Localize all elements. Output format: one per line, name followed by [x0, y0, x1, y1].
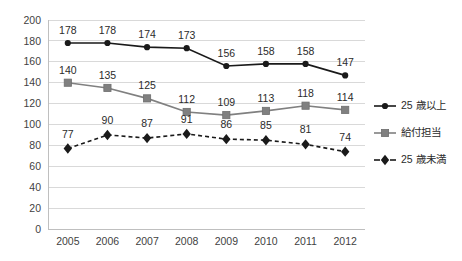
legend-label: 25 歳未満: [401, 153, 447, 165]
x-axis-tick-label: 2012: [334, 235, 358, 247]
x-axis-tick-label: 2006: [96, 235, 120, 247]
y-axis-tick-label: 160: [23, 55, 41, 67]
data-point-marker: [64, 79, 71, 86]
data-point-marker: [65, 40, 71, 46]
data-point-marker: [342, 106, 349, 113]
data-point-marker: [263, 61, 269, 67]
data-point-label: 147: [336, 56, 354, 68]
data-point-label: 77: [62, 128, 74, 140]
data-point-label: 174: [138, 28, 156, 40]
legend-label: 25 歳以上: [401, 99, 446, 111]
y-axis-tick-label: 40: [29, 181, 41, 193]
data-point-marker: [103, 130, 111, 140]
y-axis-tick-label: 0: [35, 223, 41, 235]
y-axis-tick-label: 140: [23, 76, 41, 88]
data-point-label: 86: [220, 118, 232, 130]
data-point-marker: [341, 146, 349, 156]
legend-entry[interactable]: 25 歳以上: [374, 99, 446, 111]
data-point-label: 91: [181, 113, 193, 125]
legend-marker: [381, 129, 388, 136]
data-point-label: 114: [337, 91, 354, 103]
data-point-marker: [104, 40, 110, 46]
y-axis-labels: 200180160140120100806040200: [23, 14, 41, 235]
data-point-marker: [262, 135, 270, 145]
data-point-label: 125: [138, 79, 156, 91]
y-axis-tick-label: 100: [23, 118, 41, 130]
data-point-marker: [144, 44, 150, 50]
data-point-label: 178: [99, 24, 117, 36]
data-point-label: 113: [258, 92, 275, 104]
y-axis-tick-label: 120: [23, 97, 41, 109]
legend-label: 給付担当: [401, 126, 441, 138]
data-point-label: 87: [141, 117, 153, 129]
legend-entry[interactable]: 25 歳未満: [374, 153, 447, 165]
data-point-label: 156: [218, 47, 236, 59]
x-axis-labels: 20052006200720082009201020112012: [56, 235, 357, 247]
data-point-marker: [143, 95, 150, 102]
data-point-label: 90: [102, 114, 114, 126]
x-axis-tick-label: 2005: [56, 235, 80, 247]
data-point-marker: [223, 63, 229, 69]
data-point-label: 158: [297, 45, 315, 57]
gridlines: [48, 20, 365, 229]
data-point-label: 85: [260, 119, 272, 131]
data-point-marker: [182, 129, 190, 139]
data-point-label: 81: [300, 123, 312, 135]
legend-marker: [382, 103, 388, 109]
y-axis-tick-label: 20: [29, 202, 41, 214]
legend: 25 歳以上給付担当25 歳未満: [374, 99, 447, 165]
data-point-marker: [184, 45, 190, 51]
data-point-marker: [342, 72, 348, 78]
y-axis-tick-label: 80: [29, 139, 41, 151]
data-point-label: 173: [178, 29, 196, 41]
chart-canvas: 200180160140120100806040200 200520062007…: [0, 0, 462, 261]
data-point-marker: [301, 139, 309, 149]
x-axis-tick-label: 2010: [254, 235, 278, 247]
data-point-label: 74: [339, 131, 351, 143]
data-point-marker: [64, 143, 72, 153]
line-chart: 200180160140120100806040200 200520062007…: [0, 0, 462, 261]
data-point-marker: [302, 61, 308, 67]
y-axis-tick-label: 180: [23, 35, 41, 47]
data-point-marker: [262, 107, 269, 114]
data-point-marker: [143, 133, 151, 143]
x-axis-tick-label: 2009: [215, 235, 239, 247]
y-axis-tick-label: 60: [29, 160, 41, 172]
data-point-label: 109: [218, 96, 236, 108]
legend-marker: [381, 155, 389, 165]
data-point-label: 118: [297, 87, 314, 99]
data-point-label: 178: [59, 24, 77, 36]
x-axis-tick-label: 2007: [135, 235, 159, 247]
data-point-marker: [104, 84, 111, 91]
data-point-label: 140: [59, 64, 77, 76]
data-point-marker: [222, 134, 230, 144]
x-axis-tick-label: 2008: [175, 235, 199, 247]
legend-entry[interactable]: 給付担当: [374, 126, 441, 138]
data-point-label: 112: [178, 93, 195, 105]
data-point-label: 135: [99, 69, 117, 81]
x-axis-tick-label: 2011: [294, 235, 317, 247]
y-axis-tick-label: 200: [23, 14, 41, 26]
data-point-label: 158: [257, 45, 275, 57]
data-point-marker: [302, 102, 309, 109]
